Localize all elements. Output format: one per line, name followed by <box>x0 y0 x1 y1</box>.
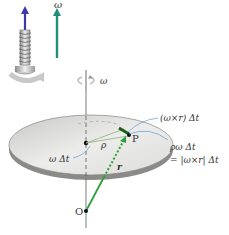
cross-product-label: (ω×r) Δt <box>160 113 200 123</box>
displacement-label-line1: ρω Δt <box>169 142 196 152</box>
omega-vector-arrow <box>53 8 61 58</box>
angle-label: ω Δt <box>49 154 70 164</box>
displacement-label-line2: = |ω×r| Δt <box>170 155 219 166</box>
screw-icon <box>10 6 44 82</box>
origin-label: O <box>75 206 83 217</box>
rho-label: ρ <box>100 140 107 150</box>
origin-point <box>84 209 88 213</box>
rotation-indicator-icon <box>78 70 94 92</box>
point-P-label: P <box>132 133 139 144</box>
rotating-disk <box>9 115 173 180</box>
rotation-indicator-label: ω <box>100 76 108 86</box>
omega-vector-label: ω <box>54 0 62 10</box>
rotation-diagram: ω ω ρ P r O (ω×r) Δt ρω Δt = |ω×r| Δt <box>0 0 229 235</box>
r-vector-solid <box>86 177 104 211</box>
